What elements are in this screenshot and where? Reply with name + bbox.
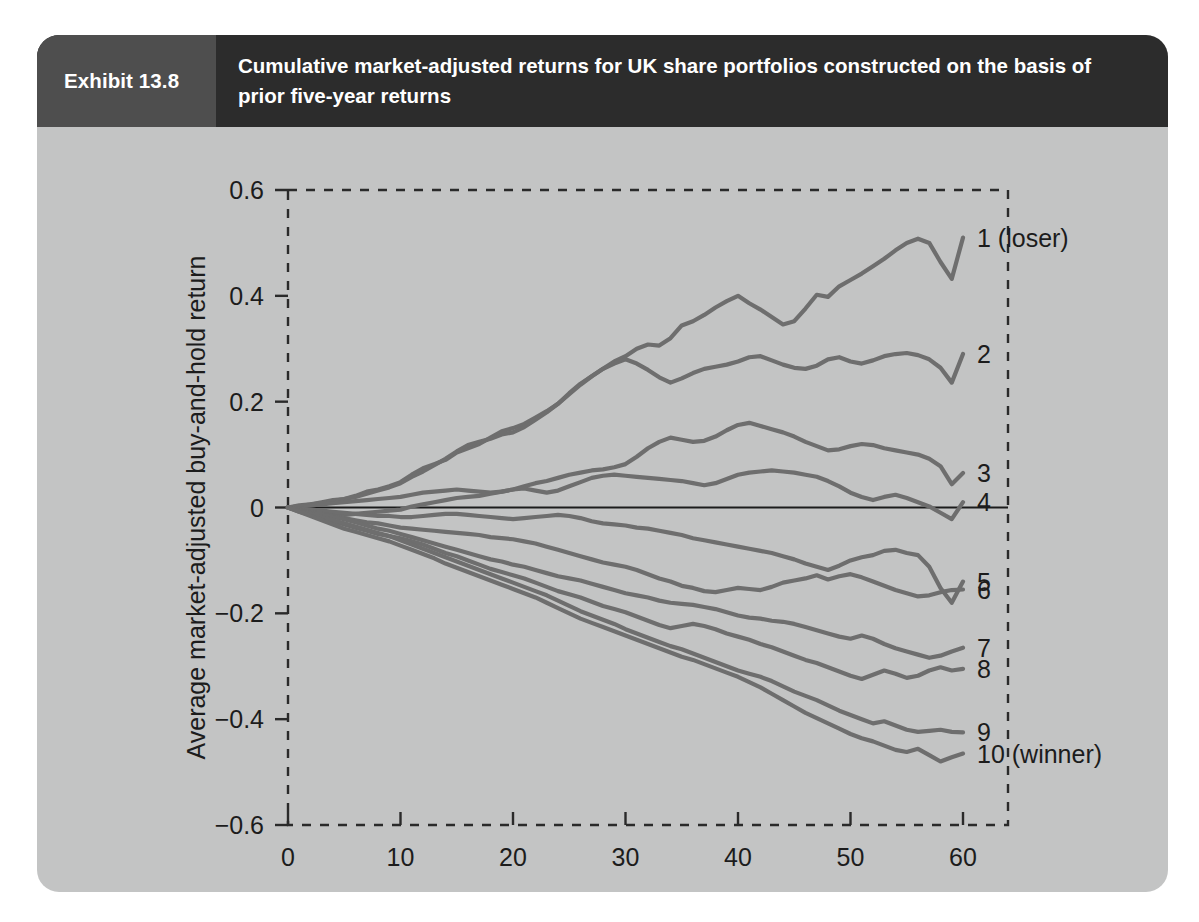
x-tick-label: 0 (281, 843, 295, 871)
y-tick-label: −0.4 (215, 705, 264, 733)
exhibit-number-block: Exhibit 13.8 (37, 35, 216, 127)
x-tick-label: 30 (612, 843, 640, 871)
y-tick-label: 0.6 (229, 176, 264, 204)
y-axis-title: Average market-adjusted buy-and-hold ret… (182, 256, 210, 760)
x-tick-label: 40 (724, 843, 752, 871)
x-axis-tick-labels: 0102030405060 (281, 843, 977, 871)
series-label-2: 2 (977, 340, 991, 368)
x-axis-ticks (288, 812, 963, 825)
data-series-group (288, 238, 963, 762)
series-label-1: 1 (loser) (977, 224, 1069, 252)
exhibit-card: Exhibit 13.8 Cumulative market-adjusted … (37, 35, 1168, 892)
x-tick-label: 20 (499, 843, 527, 871)
series-line-6 (288, 508, 963, 597)
exhibit-title: Cumulative market-adjusted returns for U… (238, 51, 1140, 111)
y-tick-label: 0.4 (229, 282, 264, 310)
y-axis-tick-labels: −0.6−0.4−0.200.20.40.6 (215, 176, 264, 839)
x-tick-label: 60 (949, 843, 977, 871)
x-tick-label: 50 (837, 843, 865, 871)
y-tick-label: −0.6 (215, 811, 264, 839)
x-axis-title: Months since portfolio formation (471, 889, 825, 892)
exhibit-title-block: Cumulative market-adjusted returns for U… (216, 35, 1168, 127)
x-tick-label: 10 (387, 843, 415, 871)
line-chart: −0.6−0.4−0.200.20.40.6 0102030405060 1 (… (37, 127, 1168, 892)
y-tick-label: 0.2 (229, 388, 264, 416)
y-tick-label: 0 (250, 494, 264, 522)
series-line-5 (288, 508, 963, 603)
exhibit-number: Exhibit 13.8 (64, 69, 179, 93)
series-label-3: 3 (977, 459, 991, 487)
series-label-4: 4 (977, 488, 991, 516)
exhibit-header: Exhibit 13.8 Cumulative market-adjusted … (37, 35, 1168, 127)
series-end-labels: 1 (loser)2345678910 (winner) (977, 224, 1102, 768)
series-label-6: 6 (977, 576, 991, 604)
chart-plot-area: −0.6−0.4−0.200.20.40.6 0102030405060 1 (… (37, 127, 1168, 892)
series-line-4 (288, 470, 963, 519)
y-tick-label: −0.2 (215, 599, 264, 627)
series-label-10: 10 (winner) (977, 740, 1102, 768)
series-line-1 (288, 238, 963, 508)
series-label-8: 8 (977, 655, 991, 683)
